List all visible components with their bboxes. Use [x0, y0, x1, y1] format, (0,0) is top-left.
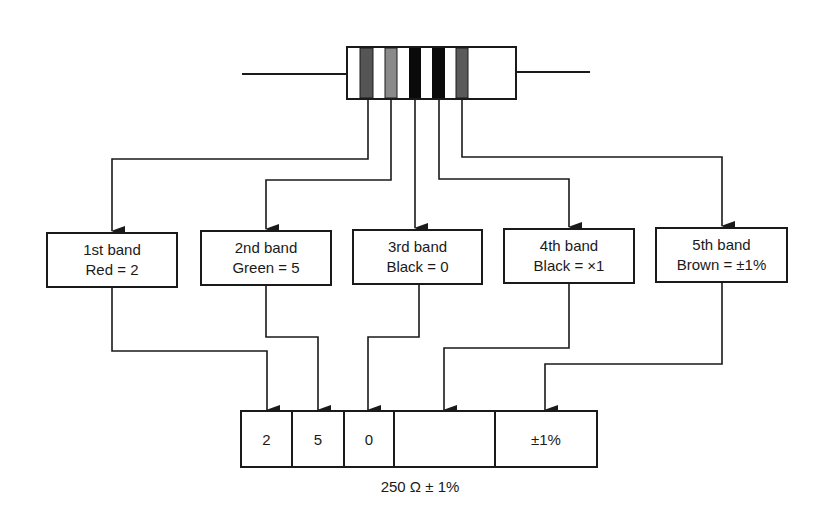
band-title: 4th band — [540, 236, 598, 256]
connector-box3-to-digit3 — [368, 285, 419, 410]
connector-box1-to-digit1 — [112, 288, 267, 410]
band-5-stripe — [456, 48, 468, 98]
band-box-2nd: 2nd band Green = 5 — [200, 230, 332, 286]
band-value: Black = ×1 — [534, 256, 605, 276]
band-value: Brown = ±1% — [677, 255, 767, 275]
connector-box4-to-multiplier — [444, 284, 569, 410]
connector-box5-to-tolerance — [545, 283, 722, 410]
connector-band1-to-box1 — [112, 99, 368, 231]
band-title: 1st band — [83, 240, 141, 260]
connector-box2-to-digit2 — [266, 286, 318, 410]
band-value: Red = 2 — [86, 260, 139, 280]
connector-band5-to-box5 — [462, 99, 722, 226]
band-3-stripe — [409, 48, 421, 98]
band-box-4th: 4th band Black = ×1 — [503, 228, 635, 284]
value-cell-digit-2: 5 — [292, 411, 344, 467]
result-caption: 250 Ω ± 1% — [320, 478, 520, 495]
value-cell-digit-3: 0 — [344, 411, 394, 467]
band-box-3rd: 3rd band Black = 0 — [352, 229, 483, 285]
band-2-stripe — [385, 48, 397, 98]
band-value: Green = 5 — [232, 258, 299, 278]
value-cell-multiplier — [394, 411, 495, 467]
band-title: 3rd band — [388, 237, 447, 257]
value-cell-digit-1: 2 — [241, 411, 292, 467]
band-1-stripe — [360, 48, 373, 98]
band-box-5th: 5th band Brown = ±1% — [655, 227, 788, 283]
band-value: Black = 0 — [386, 257, 448, 277]
band-title: 5th band — [692, 235, 750, 255]
band-title: 2nd band — [235, 238, 298, 258]
value-cell-tolerance: ±1% — [495, 411, 597, 467]
resistor-body — [347, 47, 516, 99]
band-box-1st: 1st band Red = 2 — [46, 232, 178, 288]
band-4-stripe — [432, 48, 445, 98]
connector-band2-to-box2 — [266, 99, 391, 229]
connector-band4-to-box4 — [439, 99, 569, 227]
